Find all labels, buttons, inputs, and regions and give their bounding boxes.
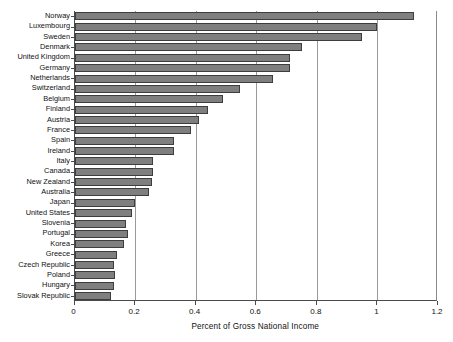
bar-row [75, 239, 437, 249]
bar-row [75, 32, 437, 42]
y-tick-mark [71, 223, 75, 224]
bar [75, 209, 133, 217]
bar-row [75, 260, 437, 270]
category-label: Switzerland [0, 84, 70, 92]
bar [75, 126, 192, 134]
bar-row [75, 177, 437, 187]
y-tick-mark [71, 140, 75, 141]
y-tick-mark [71, 109, 75, 110]
y-tick-mark [71, 161, 75, 162]
y-tick-mark [71, 285, 75, 286]
x-tick-label: 0.6 [235, 307, 275, 316]
y-tick-mark [71, 68, 75, 69]
category-label: Spain [0, 136, 70, 144]
category-label: Japan [0, 198, 70, 206]
bar-row [75, 94, 437, 104]
category-label: Hungary [0, 281, 70, 289]
bar [75, 220, 126, 228]
bar [75, 95, 223, 103]
y-tick-mark [71, 99, 75, 100]
category-label: Belgium [0, 95, 70, 103]
y-tick-mark [71, 203, 75, 204]
y-tick-mark [71, 234, 75, 235]
bar [75, 12, 414, 20]
category-label: Slovak Republic [0, 292, 70, 300]
category-label: Canada [0, 167, 70, 175]
x-tick-label: 0 [54, 307, 94, 316]
x-tick-label: 1 [356, 307, 396, 316]
category-label: Slovenia [0, 219, 70, 227]
bar [75, 147, 175, 155]
bar-row [75, 42, 437, 52]
category-label: Finland [0, 105, 70, 113]
bar [75, 188, 149, 196]
y-tick-mark [71, 16, 75, 17]
y-tick-mark [71, 192, 75, 193]
y-tick-mark [71, 213, 75, 214]
x-tick-mark [437, 301, 438, 305]
category-label: Sweden [0, 33, 70, 41]
x-tick-mark [74, 301, 75, 305]
bar-row [75, 84, 437, 94]
bar [75, 33, 363, 41]
bar [75, 230, 128, 238]
category-label: Australia [0, 188, 70, 196]
y-tick-mark [71, 27, 75, 28]
bar [75, 282, 114, 290]
y-tick-mark [71, 296, 75, 297]
category-label: Portugal [0, 229, 70, 237]
bar [75, 137, 175, 145]
y-tick-mark [71, 58, 75, 59]
plot-area [74, 11, 438, 301]
bar-row [75, 187, 437, 197]
x-axis-title: Percent of Gross National Income [74, 322, 438, 331]
x-tick-mark [134, 301, 135, 305]
category-label: Denmark [0, 43, 70, 51]
y-tick-mark [71, 37, 75, 38]
x-tick-mark [195, 301, 196, 305]
y-tick-mark [71, 254, 75, 255]
x-tick-mark [316, 301, 317, 305]
bar-row [75, 249, 437, 259]
bar-row [75, 63, 437, 73]
category-label: Italy [0, 157, 70, 165]
bar [75, 157, 154, 165]
bar [75, 251, 117, 259]
bar-series [75, 11, 437, 300]
bar-row [75, 229, 437, 239]
bar [75, 64, 290, 72]
category-label: United Kingdom [0, 53, 70, 61]
bar-chart: NorwayLuxembourgSwedenDenmarkUnited King… [0, 0, 453, 342]
category-label: Netherlands [0, 74, 70, 82]
y-tick-mark [71, 265, 75, 266]
x-tick-mark [376, 301, 377, 305]
y-tick-mark [71, 151, 75, 152]
bar [75, 85, 240, 93]
category-label: Ireland [0, 147, 70, 155]
bar [75, 106, 208, 114]
bar [75, 292, 111, 300]
category-label: Germany [0, 64, 70, 72]
bar-row [75, 21, 437, 31]
category-label: France [0, 126, 70, 134]
bar-row [75, 125, 437, 135]
bar-row [75, 73, 437, 83]
category-label: Norway [0, 12, 70, 20]
x-tick-mark [255, 301, 256, 305]
bar-row [75, 115, 437, 125]
bar [75, 178, 152, 186]
y-tick-mark [71, 130, 75, 131]
category-label: United States [0, 209, 70, 217]
bar-row [75, 218, 437, 228]
y-tick-mark [71, 120, 75, 121]
bar [75, 43, 302, 51]
x-tick-label: 0.8 [296, 307, 336, 316]
bar-row [75, 52, 437, 62]
category-label: Luxembourg [0, 22, 70, 30]
y-tick-mark [71, 182, 75, 183]
y-tick-mark [71, 275, 75, 276]
x-tick-label: 1.2 [417, 307, 453, 316]
x-tick-label: 0.4 [175, 307, 215, 316]
y-tick-mark [71, 78, 75, 79]
bar-row [75, 156, 437, 166]
